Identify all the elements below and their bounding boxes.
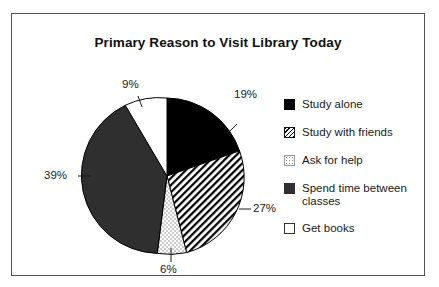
legend-item-get-books[interactable]: Get books	[284, 222, 434, 235]
legend-label-get-books: Get books	[302, 222, 354, 235]
legend-label-line-1: Spend time between	[302, 182, 407, 194]
pie-chart: 19% 27% 6% 39% 9%	[34, 66, 284, 286]
pie-label-27: 27%	[253, 202, 276, 214]
legend-label-line-2: classes	[302, 195, 340, 207]
white-swatch-icon	[284, 223, 295, 234]
screenshot-root: Primary Reason to Visit Library Today	[0, 0, 439, 287]
legend-item-ask-for-help[interactable]: Ask for help	[284, 154, 434, 167]
pie-label-6: 6%	[160, 263, 177, 275]
legend-label-study-with-friends: Study with friends	[302, 126, 393, 139]
legend-item-study-with-friends[interactable]: Study with friends	[284, 126, 434, 139]
legend-label-ask-for-help: Ask for help	[302, 154, 363, 167]
legend-label-study-alone: Study alone	[302, 98, 363, 111]
stipple-dots-swatch-icon	[284, 155, 295, 166]
diagonal-hatch-swatch-icon	[284, 127, 295, 138]
legend-item-study-alone[interactable]: Study alone	[284, 98, 434, 111]
legend: Study alone Study with friends Ask for h…	[284, 98, 434, 250]
pie-label-19: 19%	[234, 88, 257, 100]
legend-item-spend-time-between-classes[interactable]: Spend time between classes	[284, 182, 434, 208]
chart-frame: Primary Reason to Visit Library Today	[11, 13, 425, 276]
page-title: Primary Reason to Visit Library Today	[12, 35, 424, 50]
dark-gray-swatch-icon	[284, 183, 295, 194]
solid-black-swatch-icon	[284, 99, 295, 110]
pie-label-9: 9%	[122, 78, 139, 90]
legend-label-spend-time-between-classes: Spend time between classes	[302, 182, 407, 208]
pie-label-39: 39%	[44, 169, 67, 181]
